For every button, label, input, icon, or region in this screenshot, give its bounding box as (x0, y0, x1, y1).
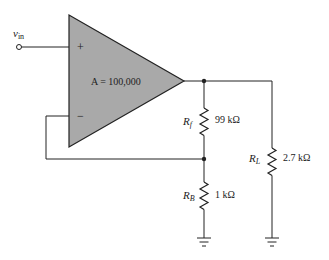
rf-symbol: Rf (182, 115, 194, 129)
rl-value: 2.7 kΩ (283, 152, 310, 163)
rb-value: 1 kΩ (215, 189, 235, 200)
rf-resistor (200, 108, 208, 136)
plus-sign: + (77, 40, 84, 54)
gain-label: A = 100,000 (91, 76, 141, 87)
rl-resistor (268, 148, 276, 176)
circuit-diagram: vin + − A = 100,000 Rf 99 kΩ RB 1 kΩ RL … (0, 0, 329, 260)
ground-icon (265, 238, 279, 246)
rb-resistor (200, 182, 208, 210)
rb-symbol: RB (182, 189, 195, 203)
input-terminal (17, 45, 22, 50)
minus-sign: − (77, 109, 84, 123)
rf-value: 99 kΩ (215, 114, 240, 125)
vin-label: vin (13, 27, 24, 41)
rl-symbol: RL (248, 152, 261, 166)
ground-icon (197, 238, 211, 246)
